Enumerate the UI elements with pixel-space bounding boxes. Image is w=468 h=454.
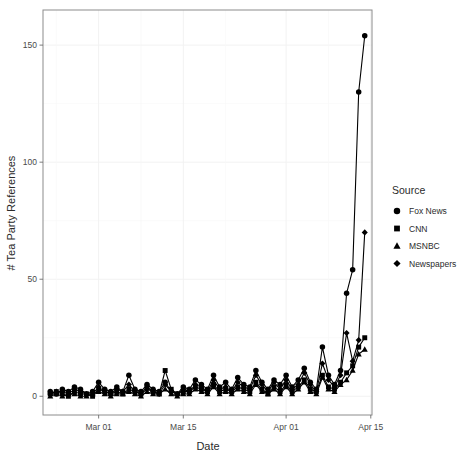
x-tick-label: Mar 15 (170, 422, 197, 432)
chart-figure: 050100150 Mar 01Mar 15Apr 01Apr 15 Date … (0, 0, 468, 454)
x-axis-title: Date (196, 440, 219, 452)
x-tick-label: Apr 01 (274, 422, 299, 432)
x-tick-label: Apr 15 (358, 422, 383, 432)
legend-item-label: MSNBC (409, 241, 440, 251)
tea-party-references-line-chart: 050100150 Mar 01Mar 15Apr 01Apr 15 Date … (0, 0, 468, 454)
legend-item-label: Fox News (409, 206, 447, 216)
square-marker-icon (394, 226, 400, 232)
legend-item-label: Newspapers (409, 259, 456, 269)
y-tick-label: 100 (23, 157, 37, 167)
legend-title: Source (392, 184, 425, 196)
y-axis-title: # Tea Party References (5, 155, 17, 270)
y-tick-label: 0 (32, 391, 37, 401)
circle-marker-icon (394, 208, 400, 214)
legend-item-label: CNN (409, 224, 427, 234)
y-tick-label: 50 (28, 274, 38, 284)
y-tick-label: 150 (23, 40, 37, 50)
x-tick-label: Mar 01 (85, 422, 112, 432)
